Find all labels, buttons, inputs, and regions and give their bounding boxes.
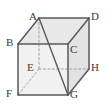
cube-figure: ABCDEFGH	[0, 0, 109, 107]
vertex-label-B: B	[6, 37, 13, 48]
vertex-label-F: F	[6, 88, 12, 99]
vertex-label-E: E	[27, 62, 34, 73]
vertex-label-C: C	[70, 44, 77, 55]
vertex-label-D: D	[91, 11, 99, 22]
vertex-label-G: G	[70, 89, 78, 100]
vertex-label-H: H	[91, 62, 99, 73]
face-front-BCGF	[18, 44, 68, 95]
vertex-label-A: A	[29, 11, 37, 22]
